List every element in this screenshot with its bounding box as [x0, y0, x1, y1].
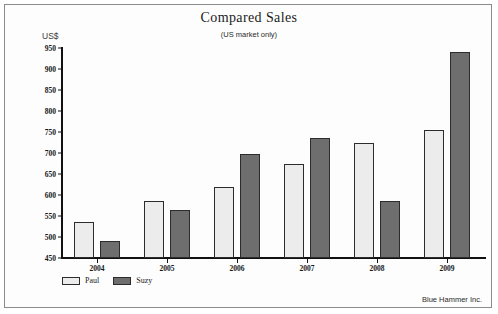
legend-item-paul: Paul: [62, 276, 99, 285]
bar-suzy-2007: [310, 138, 330, 258]
bar-paul-2009: [424, 130, 444, 258]
y-axis-tick-mark: [58, 153, 62, 154]
bar-paul-2007: [284, 164, 304, 259]
chart-title: Compared Sales: [0, 10, 498, 26]
y-axis-tick-mark: [58, 258, 62, 259]
bar-paul-2008: [354, 143, 374, 259]
bar-suzy-2004: [100, 241, 120, 258]
x-axis-tick-label: 2005: [160, 264, 175, 273]
y-axis-tick-mark: [58, 195, 62, 196]
y-axis-tick-mark: [58, 90, 62, 91]
x-axis-tick-label: 2008: [370, 264, 385, 273]
legend-swatch-icon: [62, 277, 80, 285]
credit-label: Blue Hammer Inc.: [422, 295, 482, 304]
bar-paul-2006: [214, 187, 234, 258]
y-axis-tick-mark: [58, 237, 62, 238]
y-axis-tick-mark: [58, 69, 62, 70]
chart-screenshot: Compared Sales (US market only) US$ 4505…: [0, 0, 498, 314]
x-axis-tick-label: 2007: [300, 264, 315, 273]
x-axis-tick-mark: [167, 258, 168, 263]
legend-label: Paul: [85, 276, 99, 285]
y-axis-tick-mark: [58, 174, 62, 175]
y-axis-tick-mark: [58, 216, 62, 217]
x-axis-tick-mark: [447, 258, 448, 263]
y-axis-tick-mark: [58, 111, 62, 112]
y-axis-tick-mark: [58, 48, 62, 49]
bar-suzy-2006: [240, 154, 260, 258]
legend-swatch-icon: [113, 277, 131, 285]
x-axis-tick-label: 2006: [230, 264, 245, 273]
legend-label: Suzy: [136, 276, 152, 285]
chart-subtitle: (US market only): [0, 30, 498, 39]
x-axis-tick-mark: [237, 258, 238, 263]
x-axis-tick-mark: [307, 258, 308, 263]
x-axis-tick-label: 2004: [90, 264, 105, 273]
bar-suzy-2008: [380, 201, 400, 258]
x-axis-tick-label: 2009: [440, 264, 455, 273]
legend-item-suzy: Suzy: [113, 276, 152, 285]
bar-suzy-2005: [170, 210, 190, 258]
bar-paul-2004: [74, 222, 94, 258]
y-axis-unit-label: US$: [42, 31, 59, 41]
plot-area: 4505005506006507007508008509009502004200…: [62, 48, 482, 258]
bar-suzy-2009: [450, 52, 470, 258]
x-axis-tick-mark: [97, 258, 98, 263]
chart-legend: PaulSuzy: [62, 276, 152, 285]
x-axis-tick-mark: [377, 258, 378, 263]
bar-paul-2005: [144, 201, 164, 258]
y-axis-tick-mark: [58, 132, 62, 133]
